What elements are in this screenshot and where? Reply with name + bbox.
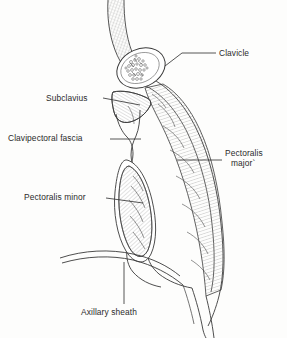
label-pectoralis-major: Pectoralismajor` — [225, 148, 279, 168]
label-clavicle: Clavicle — [219, 48, 249, 58]
label-axillary-sheath: Axillary sheath — [81, 307, 137, 317]
label-clavipectoral-fascia: Clavipectoral fascia — [8, 133, 83, 143]
label-pectoralis-major-line1: Pectoralis — [225, 148, 263, 158]
label-subclavius: Subclavius — [46, 93, 88, 103]
label-pectoralis-major-line2: major` — [225, 158, 279, 168]
anatomy-figure: Clavicle Subclavius Clavipectoral fascia… — [0, 0, 287, 338]
label-pectoralis-minor: Pectoralis minor — [24, 192, 86, 202]
